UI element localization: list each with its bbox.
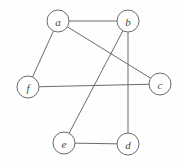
edge-layer — [33, 21, 151, 144]
graph-figure: abcdef — [0, 0, 182, 166]
graph-node-a: a — [47, 10, 69, 32]
graph-node-d: d — [117, 133, 139, 155]
graph-node-f: f — [17, 76, 39, 98]
graph-node-e: e — [53, 132, 75, 154]
graph-node-b: b — [117, 10, 139, 32]
node-layer: abcdef — [17, 10, 171, 155]
graph-node-c: c — [149, 73, 171, 95]
graph-edge-e-d — [75, 143, 117, 144]
graph-canvas: abcdef — [0, 0, 182, 166]
graph-edge-a-f — [33, 31, 54, 77]
node-label-a: a — [55, 16, 61, 28]
graph-edge-b-e — [69, 31, 123, 134]
graph-edge-a-c — [67, 27, 150, 78]
node-label-b: b — [125, 16, 131, 28]
node-label-c: c — [158, 79, 163, 91]
node-label-d: d — [125, 139, 131, 151]
node-label-e: e — [62, 138, 67, 150]
